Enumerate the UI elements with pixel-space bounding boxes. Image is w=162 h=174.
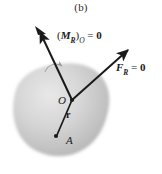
figure-container: (b)	[0, 0, 162, 174]
moment-value: 0	[96, 29, 102, 41]
moment-subscript-r: R	[70, 36, 75, 45]
position-vector-label: r	[66, 110, 70, 120]
force-value: 0	[140, 61, 146, 73]
force-resultant-label: FR = 0	[116, 62, 146, 76]
moment-subscript-o: O	[79, 36, 84, 45]
diagram-canvas	[0, 0, 162, 174]
point-a-label: A	[66, 135, 73, 146]
moment-resultant-label: (MR)O = 0	[57, 30, 102, 44]
moment-equals: =	[87, 29, 93, 41]
moment-symbol-m: M	[61, 29, 71, 41]
point-a-marker	[54, 134, 58, 138]
force-equals: =	[131, 61, 137, 73]
point-o-marker	[70, 98, 74, 102]
force-subscript-r: R	[123, 68, 128, 77]
point-o-label: O	[58, 95, 66, 106]
